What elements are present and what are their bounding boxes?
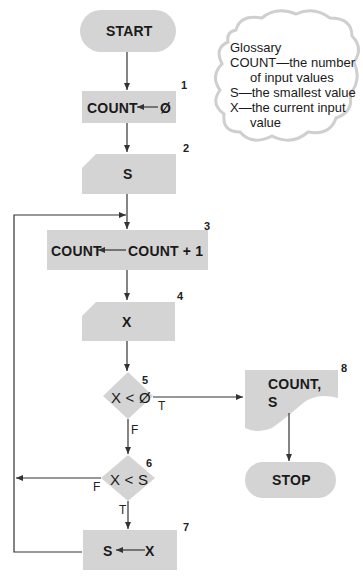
node-number-1: 1: [181, 79, 187, 91]
box2-label: S: [123, 166, 133, 182]
diamond6-false-label: F: [93, 480, 100, 494]
glossary-def: —the smallest value: [239, 85, 356, 100]
glossary: Glossary COUNT—the number of input value…: [230, 40, 356, 130]
box3-right-label: COUNT + 1: [128, 243, 203, 259]
node-number-2: 2: [183, 142, 189, 154]
box7-right-label: X: [145, 543, 155, 559]
box3-left-label: COUNT: [51, 243, 102, 259]
glossary-term: COUNT: [230, 55, 276, 70]
node-number-5: 5: [142, 374, 148, 386]
stop-label: STOP: [272, 472, 311, 488]
glossary-entry-s: S—the smallest value: [230, 85, 356, 100]
glossary-def: —the current input: [239, 100, 346, 115]
diamond5-true-label: T: [158, 399, 165, 413]
doc8-line1: COUNT,: [268, 376, 321, 392]
glossary-term: S: [230, 85, 239, 100]
glossary-def: —the number: [276, 55, 355, 70]
node-number-4: 4: [177, 290, 183, 302]
box1-right-label: Ø: [160, 100, 171, 116]
glossary-title: Glossary: [230, 40, 356, 55]
diamond5-label: X < Ø: [111, 389, 151, 406]
glossary-term: X: [230, 100, 239, 115]
doc8-line2: S: [268, 394, 278, 410]
diamond6-true-label: T: [119, 503, 126, 517]
box1-left-label: COUNT: [87, 100, 138, 116]
glossary-entry-count: COUNT—the number: [230, 55, 356, 70]
diamond6-label: X < S: [110, 471, 148, 488]
box7-left-label: S: [103, 543, 113, 559]
node-number-8: 8: [341, 362, 347, 374]
node-number-3: 3: [204, 220, 210, 232]
node-number-6: 6: [146, 457, 152, 469]
glossary-def-cont: of input values: [230, 70, 356, 85]
box4-label: X: [122, 314, 132, 330]
diamond5-false-label: F: [131, 423, 138, 437]
node-number-7: 7: [183, 521, 189, 533]
glossary-def-cont: value: [230, 115, 356, 130]
start-label: START: [106, 23, 153, 39]
glossary-entry-x: X—the current input: [230, 100, 356, 115]
